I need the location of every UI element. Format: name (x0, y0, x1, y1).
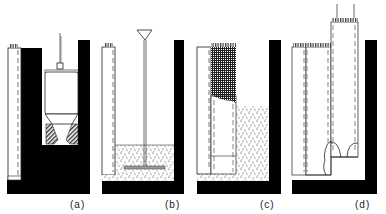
concrete-fill (236, 106, 269, 181)
soil-base (292, 180, 377, 194)
panel-label-b: (b) (165, 199, 180, 210)
reinforcement-cage (211, 96, 236, 174)
existing-panel (8, 48, 21, 180)
panel-label-d: (d) (355, 199, 370, 210)
panel-a (7, 33, 90, 194)
soil-wall (365, 40, 377, 194)
panel-c (197, 40, 281, 194)
grab-icon (45, 33, 78, 144)
panel-label-c: (c) (260, 199, 275, 210)
diaphragm-wall-diagram: (a) (b) (0, 0, 386, 214)
panel-label-a: (a) (70, 199, 85, 210)
soil-wall (269, 40, 281, 194)
panel-d (292, 4, 377, 194)
guide-wall-cap (10, 44, 18, 48)
new-panel (306, 47, 331, 175)
soil-base (102, 181, 184, 194)
guide-wall-cap (105, 43, 113, 47)
soil-wall (174, 40, 184, 194)
panel-b (102, 30, 184, 194)
slurry-displaced (211, 47, 236, 103)
stop-end-chamber (331, 22, 358, 157)
concrete-fill (113, 145, 174, 181)
soil-base (197, 181, 281, 194)
